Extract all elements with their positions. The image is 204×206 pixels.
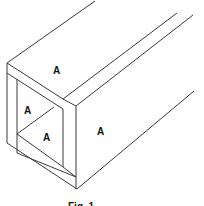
label-right-face: A [97,126,104,137]
figure-caption: Fig. 1 [68,201,95,206]
beam-edges [7,1,194,189]
inner-diagonal-edge [17,107,54,134]
label-top-face: A [53,65,60,76]
top-back-edge [7,1,95,63]
top-right-long-edge [63,13,177,99]
bottom-frame-inner-edge [17,153,76,177]
right-top-long-edge [76,15,193,106]
label-inner-left-wall: A [24,105,31,116]
front-top-edge-inner [7,73,63,109]
front-step-edge [63,99,76,106]
hollow-beam-diagram: A A A A Fig. 1 [0,0,204,206]
right-bottom-long-edge [77,91,194,189]
label-inner-bottom-wall: A [43,132,50,143]
outer-bottom-edge [7,143,77,189]
